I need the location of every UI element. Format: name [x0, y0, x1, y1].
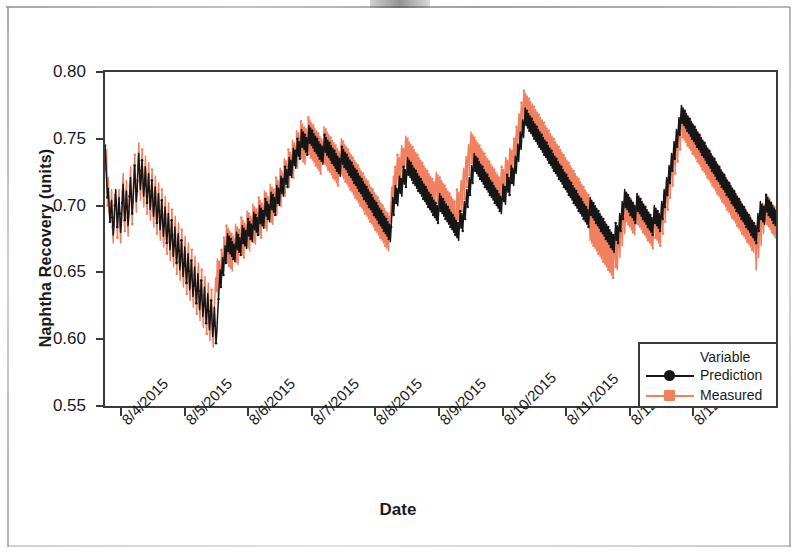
- data-point: [138, 170, 141, 173]
- data-point: [380, 210, 383, 213]
- data-point: [394, 166, 396, 168]
- data-point: [622, 218, 625, 221]
- data-point: [367, 180, 369, 182]
- data-point: [580, 198, 583, 201]
- data-point: [354, 196, 356, 198]
- data-point: [755, 242, 758, 245]
- data-point: [412, 182, 415, 185]
- data-point: [741, 233, 743, 235]
- data-point: [344, 180, 346, 182]
- data-point: [358, 190, 361, 193]
- data-point: [521, 134, 524, 137]
- data-point: [272, 188, 274, 190]
- data-point: [300, 120, 302, 122]
- data-point: [672, 184, 674, 186]
- data-point: [654, 237, 656, 239]
- data-point: [362, 172, 364, 174]
- data-point: [760, 218, 763, 221]
- data-point: [352, 156, 354, 158]
- data-point: [422, 198, 425, 201]
- data-point: [476, 158, 479, 161]
- data-point: [170, 219, 173, 222]
- data-point: [205, 333, 207, 335]
- data-point: [374, 229, 376, 231]
- data-point: [223, 237, 225, 239]
- data-point: [407, 174, 410, 177]
- data-point: [560, 166, 563, 169]
- data-point: [762, 206, 765, 209]
- legend-label-measured: Measured: [700, 386, 762, 405]
- data-point: [166, 253, 168, 255]
- data-point: [624, 206, 627, 209]
- data-point: [279, 190, 282, 193]
- data-point: [661, 218, 664, 221]
- data-point: [320, 172, 322, 174]
- data-point: [421, 162, 423, 164]
- data-point: [232, 258, 235, 261]
- data-point: [454, 234, 457, 237]
- data-point: [426, 170, 428, 172]
- data-point: [765, 194, 768, 197]
- data-point: [156, 222, 159, 225]
- data-point: [225, 224, 227, 226]
- data-point: [387, 238, 390, 241]
- data-point: [247, 218, 250, 221]
- data-point: [600, 230, 603, 233]
- data-point: [701, 154, 704, 157]
- data-point: [342, 140, 344, 142]
- data-point: [202, 305, 205, 308]
- data-point: [185, 282, 188, 285]
- y-tick-label: 0.55: [53, 396, 86, 416]
- legend-label-prediction: Prediction: [700, 366, 762, 385]
- data-point: [553, 170, 556, 173]
- data-point: [642, 231, 644, 233]
- data-point: [667, 208, 669, 210]
- data-point: [181, 229, 183, 231]
- data-point: [449, 226, 452, 229]
- y-axis-title: Naphtha Recovery (units): [37, 98, 55, 398]
- data-point: [637, 210, 640, 213]
- data-point: [463, 198, 465, 200]
- data-point: [196, 313, 198, 315]
- data-point: [237, 234, 240, 237]
- data-point: [506, 174, 509, 177]
- data-point: [225, 262, 228, 265]
- data-point: [572, 202, 575, 205]
- data-point: [466, 206, 469, 209]
- data-point: [711, 184, 713, 186]
- data-point: [528, 130, 531, 133]
- data-point: [664, 206, 667, 209]
- data-point: [265, 192, 267, 194]
- data-point: [252, 226, 255, 229]
- data-point: [716, 192, 718, 194]
- data-point: [543, 122, 545, 124]
- data-point: [651, 234, 654, 237]
- data-point: [111, 216, 114, 219]
- data-point: [332, 176, 334, 178]
- data-point: [533, 106, 535, 108]
- data-point: [243, 257, 245, 259]
- y-tick-label: 0.80: [53, 62, 86, 82]
- data-point: [634, 222, 637, 225]
- data-point: [379, 237, 381, 239]
- data-point: [632, 231, 634, 233]
- data-point: [605, 238, 608, 241]
- data-point: [453, 200, 455, 202]
- page-border-bottom: [7, 545, 791, 547]
- data-point: [563, 186, 566, 189]
- data-point: [165, 242, 168, 245]
- data-point: [447, 206, 450, 209]
- data-point: [515, 126, 517, 128]
- data-point: [723, 174, 726, 177]
- data-point: [133, 164, 136, 167]
- data-point: [406, 138, 408, 140]
- data-point: [124, 230, 126, 232]
- data-point: [568, 194, 571, 197]
- data-point: [136, 190, 139, 193]
- data-point: [148, 190, 151, 193]
- data-point: [333, 150, 336, 153]
- data-point: [498, 210, 501, 213]
- legend-title-row: Variable: [640, 347, 780, 366]
- data-point: [353, 182, 356, 185]
- data-point: [437, 222, 440, 225]
